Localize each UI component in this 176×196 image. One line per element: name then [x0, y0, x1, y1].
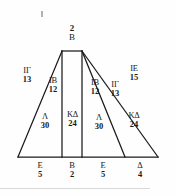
label-area-center: ΚΔ 24 — [61, 110, 84, 127]
label-area-right: Λ 30 — [88, 113, 110, 130]
page-edge-rule — [0, 188, 150, 189]
label-right-inner: ΙΒ 12 — [84, 78, 106, 95]
label-area-right-outer: ΚΔ 24 — [122, 111, 146, 128]
label-left-outer: ΙΓ 13 — [16, 66, 38, 83]
label-left-inner: ΙΒ 12 — [42, 76, 64, 93]
label-base-2: Β 2 — [63, 161, 81, 178]
geometry-drawing — [0, 0, 176, 196]
scan-artifact-mark — [41, 11, 43, 17]
apex-label: 2 B — [62, 24, 82, 42]
figure-canvas: 2 B ΙΓ 13 ΙΒ 12 ΙΒ 12 ΙΓ 13 ΙΕ 15 Λ 30 Κ… — [0, 0, 176, 196]
label-right-outer: ΙΕ 15 — [122, 64, 146, 81]
edge-right-outer — [82, 51, 158, 157]
label-base-4: Δ 4 — [131, 161, 149, 178]
label-right-mid: ΙΓ 13 — [104, 80, 126, 97]
label-base-1: Ε 5 — [31, 161, 49, 178]
divider-middle-slant — [82, 51, 125, 157]
label-base-3: Ε 5 — [94, 161, 112, 178]
label-area-left: Λ 30 — [34, 112, 56, 129]
